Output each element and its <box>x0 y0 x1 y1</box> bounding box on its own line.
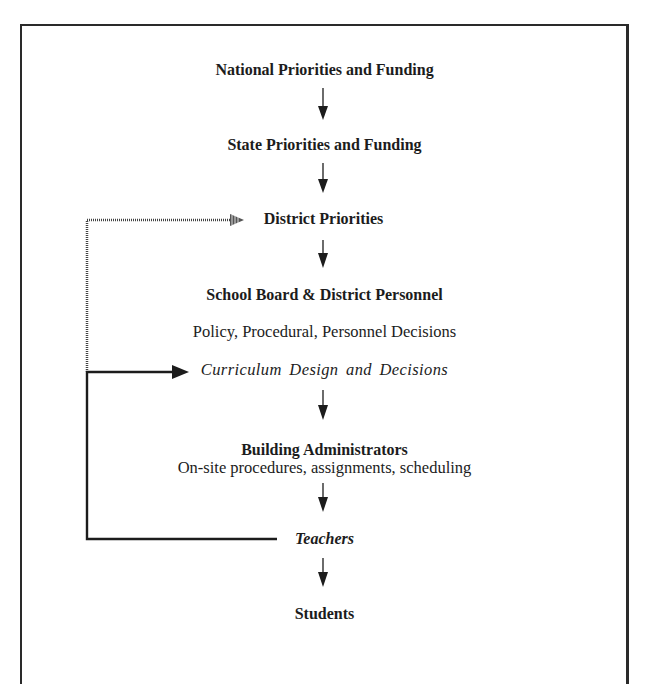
node-curriculum-design: Curriculum Design and Decisions <box>0 362 649 379</box>
node-students: Students <box>0 606 649 622</box>
node-teachers: Teachers <box>0 531 649 547</box>
node-policy-decisions: Policy, Procedural, Personnel Decisions <box>0 324 649 341</box>
diagram-frame <box>20 24 629 684</box>
node-national-priorities: National Priorities and Funding <box>0 62 649 78</box>
node-district-priorities: District Priorities <box>0 211 648 227</box>
node-school-board: School Board & District Personnel <box>0 287 649 303</box>
node-onsite-procedures: On-site procedures, assignments, schedul… <box>0 460 649 477</box>
node-building-administrators: Building Administrators <box>0 442 649 458</box>
node-state-priorities: State Priorities and Funding <box>0 137 649 153</box>
